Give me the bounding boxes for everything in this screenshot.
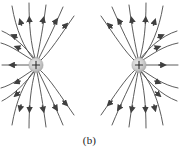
field-arrow [119, 105, 121, 109]
field-arrow [17, 47, 21, 48]
field-arrow [154, 105, 155, 109]
field-line-figure: (b) [0, 0, 179, 148]
field-line [140, 72, 146, 128]
field-line [29, 72, 35, 128]
field-line [37, 72, 46, 127]
figure-caption: (b) [0, 134, 179, 146]
field-arrow [20, 21, 21, 25]
field-arrow [20, 105, 21, 109]
field-arrow [16, 92, 20, 95]
field-arrow [156, 92, 160, 95]
field-arrow [43, 106, 44, 110]
field-arrow [155, 47, 159, 48]
field-line [129, 72, 138, 127]
field-arrow [154, 21, 155, 25]
field-arrow [132, 106, 133, 110]
field-arrow [132, 19, 133, 23]
field-line [29, 3, 35, 58]
field-arrow [13, 36, 17, 38]
field-line [37, 5, 46, 58]
field-arrow [109, 101, 112, 104]
field-arrow [42, 19, 43, 23]
electric-field-diagram [0, 0, 179, 148]
field-arrow [158, 36, 162, 38]
field-line [140, 3, 146, 58]
field-arrow [16, 81, 20, 83]
field-line [2, 72, 34, 101]
field-line [129, 5, 138, 58]
field-line [40, 16, 74, 61]
field-arrow [54, 105, 56, 109]
field-line [101, 16, 135, 61]
field-arrow [155, 81, 159, 83]
field-arrow [63, 101, 66, 104]
right-charge [132, 58, 146, 72]
left-charge [29, 58, 43, 72]
